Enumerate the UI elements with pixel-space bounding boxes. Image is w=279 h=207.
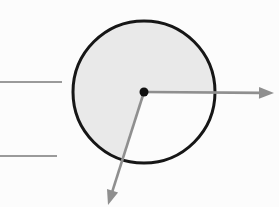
- right-arrow-shaft: [144, 92, 261, 93]
- circle-vectors-diagram: [0, 0, 279, 207]
- figure-svg: [0, 0, 279, 207]
- center-dot: [140, 88, 149, 97]
